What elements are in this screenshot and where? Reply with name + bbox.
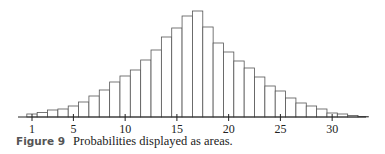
histogram-bar [317,109,327,117]
x-tick-label: 25 [274,122,286,134]
histogram-bar [213,43,223,117]
x-tick-label: 30 [326,122,338,134]
figure-caption: Figure 9Probabilities displayed as areas… [16,134,233,149]
histogram-bar [265,86,275,117]
histogram-bar [296,103,306,117]
x-tick-label: 20 [223,122,235,134]
histogram-bars [27,11,369,117]
histogram-bar [151,50,161,117]
histogram-bar [255,77,265,117]
histogram-bar [223,52,233,117]
histogram-bar [203,27,213,117]
x-tick-label: 5 [70,122,76,134]
x-tick-label: 1 [29,122,35,134]
histogram-bar [306,106,316,117]
histogram-bar [110,82,120,117]
histogram-bar [172,28,182,117]
histogram-bar [275,91,285,117]
histogram-bar [161,37,171,117]
figure-label: Figure 9 [16,135,65,147]
histogram-bar [58,109,68,117]
histogram-chart: 151015202530 [0,0,385,134]
x-tick-label: 10 [119,122,131,134]
histogram-bar [182,16,192,117]
histogram-bar [141,60,151,117]
histogram-bar [48,110,58,117]
histogram-bar [130,70,140,117]
histogram-bar [244,68,254,117]
histogram-bar [89,96,99,117]
histogram-bar [192,11,202,117]
x-tick-label: 15 [171,122,183,134]
histogram-bar [99,90,109,117]
caption-text: Probabilities displayed as areas. [73,134,233,148]
histogram-bar [286,98,296,117]
histogram-bar [120,76,130,117]
histogram-bar [79,102,89,117]
histogram-bar [234,61,244,117]
histogram-bar [37,113,47,118]
